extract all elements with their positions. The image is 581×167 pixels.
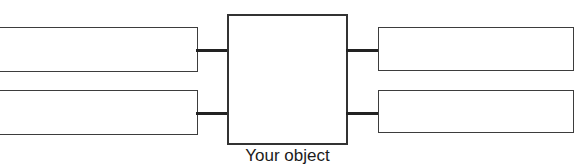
right-top-box[interactable] <box>378 27 574 71</box>
connector-left-bottom <box>196 112 229 115</box>
diagram-canvas: Your object <box>0 0 581 167</box>
center-object-box[interactable] <box>227 14 348 145</box>
right-bottom-box[interactable] <box>378 90 574 133</box>
connector-left-top <box>196 49 229 52</box>
center-object-caption: Your object <box>227 146 348 166</box>
connector-right-top <box>346 49 380 52</box>
connector-right-bottom <box>346 112 380 115</box>
left-top-box[interactable] <box>0 27 198 72</box>
left-bottom-box[interactable] <box>0 90 198 135</box>
